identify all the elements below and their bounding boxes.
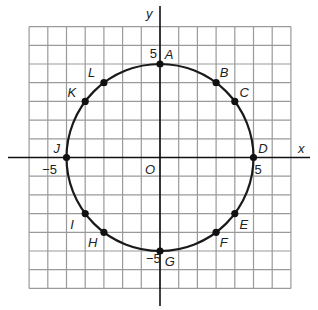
tick-label-y5: 5 (150, 46, 157, 61)
point-label: G (165, 254, 175, 269)
point-label: J (52, 141, 60, 156)
point-label: D (258, 141, 267, 156)
point-label: A (164, 47, 174, 62)
point-dot-icon (82, 210, 89, 217)
point-dot-icon (156, 60, 163, 67)
point-dot-icon (213, 229, 220, 236)
point-label: E (239, 217, 248, 232)
point-dot-icon (231, 98, 238, 105)
point-label: H (88, 235, 98, 250)
point-dot-icon (250, 154, 257, 161)
point-dot-icon (63, 154, 70, 161)
point-dot-icon (100, 229, 107, 236)
origin-label: O (145, 162, 155, 177)
tick-label-ym5: −5 (146, 251, 161, 266)
point-label: F (220, 235, 229, 250)
tick-label-xm5: −5 (42, 162, 57, 177)
tick-label-x5: 5 (254, 162, 261, 177)
tick-labels: 5−55−5 (42, 46, 261, 266)
point-dot-icon (82, 98, 89, 105)
x-axis-label: x (297, 141, 305, 156)
point-label: L (88, 65, 95, 80)
point-label: K (67, 85, 77, 100)
point-dot-icon (231, 210, 238, 217)
point-dot-icon (213, 79, 220, 86)
y-axis-label: y (145, 6, 154, 21)
point-label: B (220, 65, 229, 80)
coordinate-plane: ABCDEFGHIJKL x y O 5−55−5 (0, 0, 318, 310)
point-label: C (239, 85, 249, 100)
point-dot-icon (100, 79, 107, 86)
point-label: I (70, 217, 74, 232)
